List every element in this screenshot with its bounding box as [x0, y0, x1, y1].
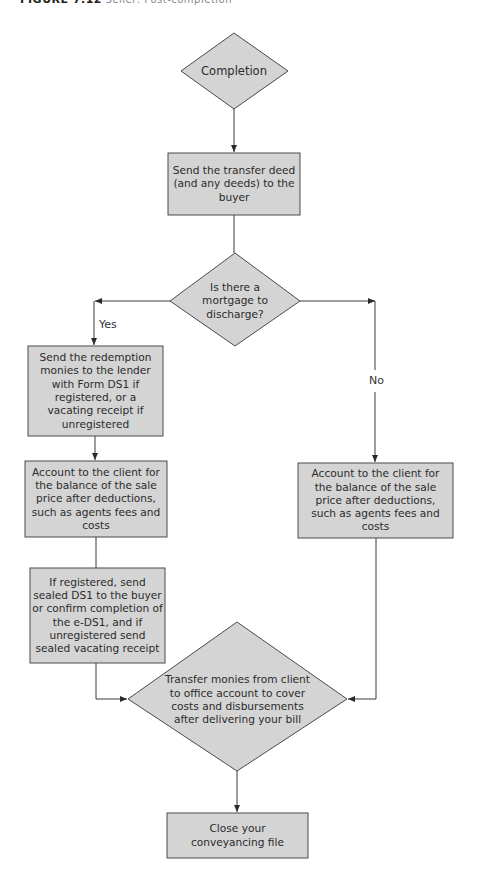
yes-label: Yes	[99, 318, 117, 331]
transfer-monies-label: Transfer monies from client to office ac…	[160, 670, 315, 730]
send-transfer-label: Send the transfer deed (and any deeds) t…	[172, 156, 296, 212]
account-left-label: Account to the client for the balance of…	[29, 464, 163, 534]
edge-right-to-transfer	[348, 538, 376, 699]
start-label: Completion	[195, 62, 273, 82]
account-right-label: Account to the client for the balance of…	[304, 466, 447, 535]
edge-sealed-to-transfer	[96, 663, 127, 699]
close-file-label: Close your conveyancing file	[172, 816, 303, 855]
redemption-label: Send the redemption monies to the lender…	[31, 349, 160, 433]
no-label: No	[367, 374, 386, 387]
sealed-ds1-label: If registered, send sealed DS1 to the bu…	[32, 571, 163, 660]
mortgage-decision-label: Is there a mortgage to discharge?	[188, 287, 282, 315]
flowchart-canvas	[0, 0, 484, 886]
